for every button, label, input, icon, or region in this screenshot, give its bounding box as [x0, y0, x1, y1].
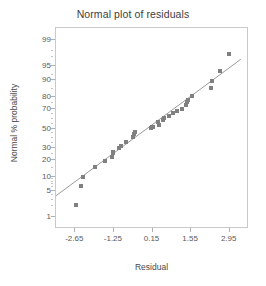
data-point [210, 79, 214, 83]
data-point [93, 165, 97, 169]
x-tick-label: 1.55 [182, 234, 198, 243]
x-tick-mark [113, 228, 114, 232]
data-point [111, 150, 115, 154]
data-point [175, 109, 179, 113]
y-minor-tick-mark [51, 102, 53, 103]
x-tick-label: 2.95 [221, 234, 237, 243]
data-point [119, 144, 123, 148]
data-point [103, 159, 107, 163]
y-minor-tick-mark [51, 113, 53, 114]
x-tick-mark [229, 228, 230, 232]
y-tick-label: 50 [42, 123, 51, 132]
y-axis-tick-labels: 15102030507080909599 [30, 27, 51, 228]
data-point [133, 130, 137, 134]
y-minor-tick-mark [51, 137, 53, 138]
y-minor-tick-mark [51, 118, 53, 119]
x-axis-label: Residual [55, 262, 248, 272]
y-minor-tick-mark [51, 194, 53, 195]
y-minor-tick-mark [51, 132, 53, 133]
y-minor-tick-mark [51, 153, 53, 154]
y-tick-label: 30 [42, 143, 51, 152]
data-point [124, 140, 128, 144]
y-tick-label: 10 [42, 172, 51, 181]
x-tick-label: -2.65 [65, 234, 83, 243]
data-point [218, 69, 222, 73]
y-tick-label: 20 [42, 155, 51, 164]
normal-probability-plot: Normal plot of residuals Normal % probab… [0, 0, 266, 286]
x-axis-tick-labels: -2.65-1.250.151.552.95 [55, 234, 248, 246]
data-point [180, 107, 184, 111]
y-minor-tick-mark [51, 178, 53, 179]
data-point [209, 86, 213, 90]
y-minor-tick-mark [51, 88, 53, 89]
y-minor-tick-mark [51, 50, 53, 51]
data-point [190, 94, 194, 98]
data-point [186, 98, 190, 102]
y-tick-label: 90 [42, 74, 51, 83]
y-tick-label: 70 [42, 103, 51, 112]
data-point [81, 175, 85, 179]
chart-title: Normal plot of residuals [0, 8, 266, 20]
y-minor-tick-mark [51, 186, 53, 187]
x-tick-mark [152, 228, 153, 232]
y-minor-tick-mark [51, 123, 53, 124]
x-tick-mark [190, 228, 191, 232]
y-minor-tick-mark [51, 142, 53, 143]
y-minor-tick-mark [51, 167, 53, 168]
data-point [227, 52, 231, 56]
data-point [110, 155, 114, 159]
data-points-layer [56, 28, 247, 227]
y-minor-tick-mark [51, 56, 53, 57]
x-tick-label: -1.25 [104, 234, 122, 243]
data-point [151, 125, 155, 129]
x-axis-tick-marks [55, 228, 248, 233]
x-tick-mark [74, 228, 75, 232]
data-point [157, 123, 161, 127]
data-point [79, 184, 83, 188]
data-point [162, 116, 166, 120]
y-minor-tick-mark [51, 199, 53, 200]
y-tick-label: 95 [42, 61, 51, 70]
x-tick-label: 0.15 [144, 234, 160, 243]
y-axis-label: Normal % probability [9, 63, 19, 183]
y-minor-tick-mark [51, 181, 53, 182]
y-tick-label: 80 [42, 91, 51, 100]
data-point [74, 203, 78, 207]
y-minor-tick-mark [51, 205, 53, 206]
y-tick-label: 99 [42, 35, 51, 44]
plot-area [55, 27, 248, 228]
y-minor-tick-mark [51, 74, 53, 75]
y-minor-tick-mark [51, 183, 53, 184]
